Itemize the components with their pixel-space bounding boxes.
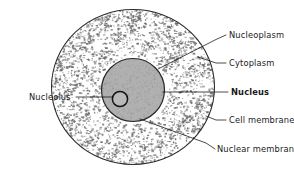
leader-line-cell-membrane	[206, 116, 226, 120]
cell-diagram: NucleoplasmCytoplasmNucleusCell membrane…	[0, 0, 294, 170]
label-nucleus: Nucleus	[231, 87, 269, 97]
label-nuclear-membrane: Nuclear membrane	[217, 144, 294, 154]
label-cell-membrane: Cell membrane	[229, 115, 294, 125]
label-nucleoplasm: Nucleoplasm	[229, 30, 284, 40]
label-nucleolus: Nucleolus	[29, 92, 71, 102]
nucleolus-shape	[112, 91, 127, 106]
diagram-canvas: NucleoplasmCytoplasmNucleusCell membrane…	[0, 0, 294, 170]
label-cytoplasm: Cytoplasm	[229, 58, 274, 68]
